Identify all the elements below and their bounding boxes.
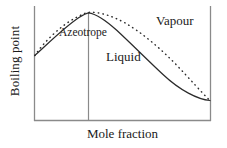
phase-diagram-figure: Boiling point Mole fraction Azeotrope Li… (0, 0, 227, 148)
y-axis-label: Boiling point (7, 26, 23, 96)
x-axis-label: Mole fraction (34, 126, 211, 142)
azeotrope-label: Azeotrope (59, 26, 107, 38)
vapour-region-label: Vapour (156, 13, 194, 29)
y-axis-label-container: Boiling point (0, 0, 30, 122)
liquid-region-label: Liquid (106, 49, 141, 65)
